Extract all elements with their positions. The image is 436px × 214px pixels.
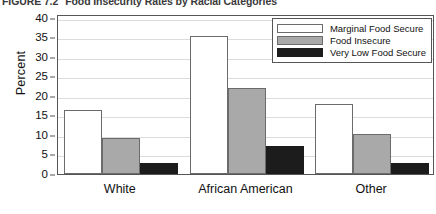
- y-tick-label: 10: [2, 130, 48, 142]
- legend-label: Very Low Food Secure: [330, 48, 426, 58]
- figure-number: FIGURE 7.2: [2, 0, 58, 7]
- bar: [140, 163, 178, 174]
- y-tick-mark: [50, 38, 55, 39]
- y-tick-label: 25: [2, 72, 48, 84]
- legend-item: Very Low Food Secure: [277, 47, 426, 58]
- y-tick-label: 0: [2, 169, 48, 181]
- bar: [190, 36, 228, 174]
- bar: [228, 88, 266, 174]
- y-tick-mark: [50, 77, 55, 78]
- y-tick-mark: [50, 116, 55, 117]
- y-tick-label: 15: [2, 111, 48, 123]
- legend-swatch: [277, 36, 323, 45]
- y-tick-mark: [50, 18, 55, 19]
- y-tick-mark: [50, 135, 55, 136]
- bar: [64, 110, 102, 174]
- y-tick-label: 40: [2, 13, 48, 25]
- x-axis-label: White: [57, 182, 183, 196]
- legend-swatch: [277, 24, 323, 33]
- y-tick-label: 35: [2, 33, 48, 45]
- legend-label: Marginal Food Secure: [330, 24, 423, 34]
- y-tick-mark: [50, 175, 55, 176]
- bar: [353, 134, 391, 174]
- figure-caption: FIGURE 7.2Food Insecurity Rates by Racia…: [2, 0, 436, 8]
- legend-swatch: [277, 48, 323, 57]
- bar: [102, 138, 140, 174]
- bar: [391, 163, 429, 174]
- bar: [266, 146, 304, 174]
- bar: [315, 104, 353, 174]
- legend: Marginal Food SecureFood InsecureVery Lo…: [272, 18, 432, 63]
- bar-chart: Percent 0510152025303540 WhiteAfrican Am…: [0, 14, 436, 214]
- y-tick-mark: [50, 96, 55, 97]
- x-axis-label: African American: [183, 182, 309, 196]
- y-tick-label: 20: [2, 91, 48, 103]
- legend-item: Food Insecure: [277, 35, 426, 46]
- x-axis-label: Other: [308, 182, 434, 196]
- y-tick-mark: [50, 155, 55, 156]
- y-tick-label: 30: [2, 52, 48, 64]
- legend-label: Food Insecure: [330, 36, 391, 46]
- figure-title: Food Insecurity Rates by Racial Categori…: [65, 0, 277, 7]
- y-tick-label: 5: [2, 150, 48, 162]
- y-tick-mark: [50, 57, 55, 58]
- legend-item: Marginal Food Secure: [277, 23, 426, 34]
